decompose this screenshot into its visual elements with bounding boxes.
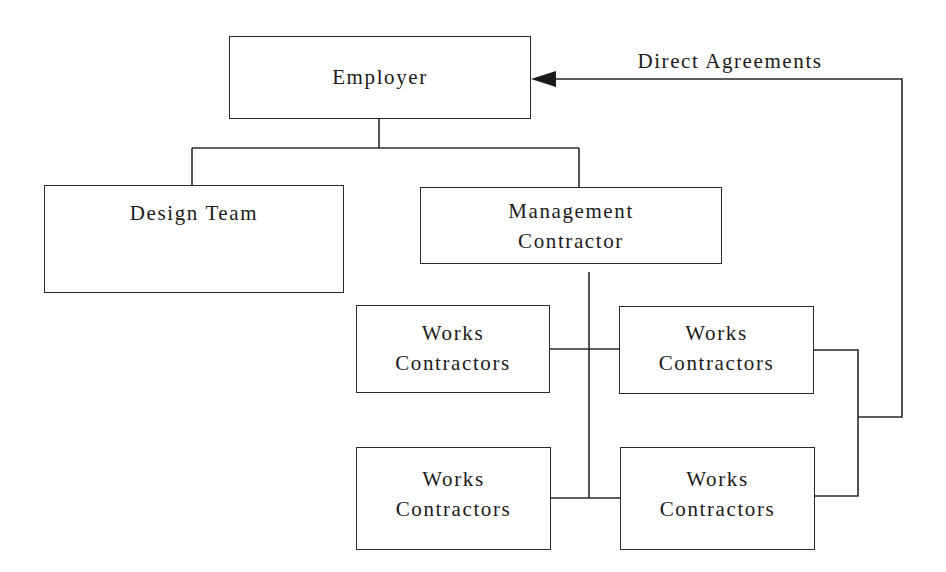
works-line2: Contractors (356, 494, 551, 524)
arrowhead-icon (531, 71, 556, 87)
works-line2: Contractors (356, 348, 550, 378)
works-contractors-label-lower-left: Works Contractors (356, 464, 551, 524)
management-contractor-label: Management Contractor (420, 196, 722, 256)
works-line1: Works (620, 464, 815, 494)
works-line1: Works (356, 464, 551, 494)
works-line1: Works (356, 318, 550, 348)
management-contractor-line1: Management (420, 196, 722, 226)
works-line2: Contractors (619, 348, 814, 378)
works-contractors-label-lower-right: Works Contractors (620, 464, 815, 524)
management-contractor-line2: Contractor (420, 226, 722, 256)
works-line2: Contractors (620, 494, 815, 524)
employer-label: Employer (229, 62, 531, 92)
works-contractors-label-upper-right: Works Contractors (619, 318, 814, 378)
right-works-bracket (813, 350, 858, 496)
design-team-label: Design Team (44, 198, 344, 228)
works-line1: Works (619, 318, 814, 348)
works-contractors-label-upper-left: Works Contractors (356, 318, 550, 378)
direct-agreements-label: Direct Agreements (612, 46, 848, 76)
